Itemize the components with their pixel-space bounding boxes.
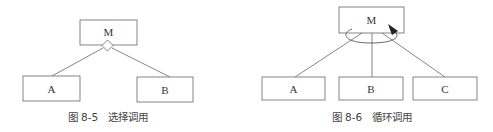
module-b-label: B [367,83,374,95]
figure-caption: 图 8-6 循环调用 [332,111,413,123]
connector-line-a [52,48,103,76]
figure-caption: 图 8-5 选择调用 [68,111,149,123]
module-m-label: M [104,26,114,38]
module-m-label: M [367,14,377,26]
connector-line-b [112,48,170,77]
module-a-label: A [290,83,298,95]
figure-loop-call: M A B C 图 8-6 循环调用 [262,7,477,123]
connector-line-c [382,33,445,77]
connector-line-a [295,33,362,77]
figure-selection-call: M A B 图 8-5 选择调用 [23,20,193,123]
module-a-label: A [48,83,56,95]
module-b-label: B [161,84,168,96]
module-c-label: C [441,83,448,95]
